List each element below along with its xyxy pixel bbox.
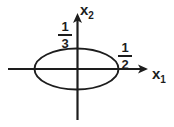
y-axis-label-subscript: 2 bbox=[88, 10, 94, 21]
x-axis-label-subscript: 1 bbox=[160, 74, 166, 85]
y-axis-label: x2 bbox=[80, 2, 94, 21]
x-intercept-numerator: 1 bbox=[118, 41, 132, 54]
y-intercept-denominator: 3 bbox=[58, 37, 72, 50]
x-intercept-label: 1 2 bbox=[118, 41, 132, 72]
x-axis-label: x1 bbox=[152, 66, 166, 85]
ellipse-coordinate-plot: x2 x1 1 3 1 2 bbox=[0, 0, 174, 127]
y-intercept-numerator: 1 bbox=[58, 20, 72, 33]
x-intercept-denominator: 2 bbox=[118, 58, 132, 71]
y-intercept-label: 1 3 bbox=[58, 20, 72, 51]
